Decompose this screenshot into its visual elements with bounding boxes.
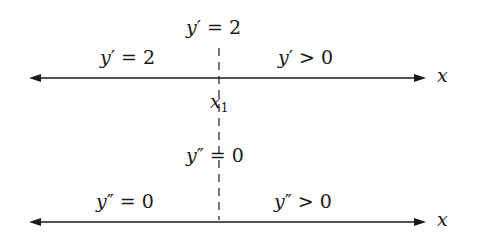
bottom-left-label: y″ = 0 — [96, 192, 154, 211]
left-arrow-icon — [29, 74, 41, 82]
right-arrow-icon — [414, 218, 426, 226]
top-axis-label: x — [437, 66, 448, 85]
left-arrow-icon — [29, 218, 41, 226]
critical-point-label: x1 — [210, 92, 228, 114]
right-arrow-icon — [414, 74, 426, 82]
sign-diagram: y′ = 2 y′ = 2 y′ > 0 x x1 y″ = 0 y″ = 0 … — [0, 0, 480, 238]
top-right-label: y′ > 0 — [278, 48, 333, 67]
top-number-line — [29, 74, 426, 82]
bottom-center-label: y″ = 0 — [186, 146, 244, 165]
bottom-right-label: y″ > 0 — [274, 192, 332, 211]
top-center-label: y′ = 2 — [186, 18, 241, 37]
top-left-label: y′ = 2 — [100, 48, 155, 67]
bottom-number-line — [29, 218, 426, 226]
bottom-axis-label: x — [437, 210, 448, 229]
